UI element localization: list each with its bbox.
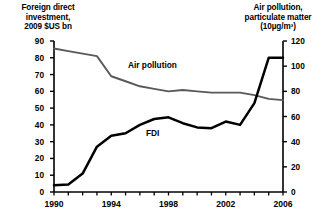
plot-area <box>0 0 331 216</box>
right-tick-label: 20 <box>291 162 313 172</box>
right-tick-label: 80 <box>291 86 313 96</box>
air-pollution-series-label: Air pollution <box>128 60 177 70</box>
x-tick-label: 1994 <box>93 199 129 209</box>
right-tick-label: 100 <box>291 61 313 71</box>
air-pollution-line <box>54 49 283 101</box>
x-tick-label: 1998 <box>151 199 187 209</box>
fdi-series-label: FDI <box>146 128 159 138</box>
left-tick-label: 20 <box>22 153 44 163</box>
left-tick-label: 50 <box>22 103 44 113</box>
left-tick-label: 30 <box>22 137 44 147</box>
right-tick-label: 40 <box>291 137 313 147</box>
right-tick-label: 120 <box>291 36 313 46</box>
x-tick-label: 2006 <box>265 199 301 209</box>
left-tick-label: 60 <box>22 86 44 96</box>
left-tick-label: 40 <box>22 120 44 130</box>
x-tick-label: 1990 <box>36 199 72 209</box>
left-tick-label: 70 <box>22 70 44 80</box>
x-tick-label: 2002 <box>208 199 244 209</box>
left-tick-label: 80 <box>22 53 44 63</box>
fdi-line <box>54 58 283 186</box>
left-tick-label: 0 <box>22 187 44 197</box>
chart-figure: Foreign direct investment, 2009 $US bn A… <box>0 0 331 216</box>
right-tick-label: 60 <box>291 112 313 122</box>
right-tick-label: 0 <box>291 187 313 197</box>
left-tick-label: 90 <box>22 36 44 46</box>
left-tick-label: 10 <box>22 170 44 180</box>
